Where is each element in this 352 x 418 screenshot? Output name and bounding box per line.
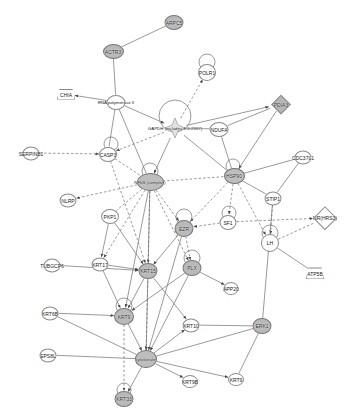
node-stip1[interactable]: STIP1 bbox=[264, 192, 282, 205]
ellipse-shape-icon bbox=[114, 308, 134, 325]
ellipse-shape-icon bbox=[60, 193, 77, 207]
node-pdia3[interactable]: PDIA3 bbox=[269, 98, 293, 111]
node-sf1[interactable]: SF1 bbox=[219, 216, 237, 229]
ellipse-shape-icon bbox=[165, 15, 184, 30]
node-krt9[interactable]: KRT9 bbox=[227, 373, 245, 386]
node-krt9b[interactable]: KRT9B bbox=[181, 375, 199, 388]
node-keratin[interactable]: cytokeratin bbox=[136, 351, 156, 367]
node-lh[interactable]: LH bbox=[261, 235, 279, 251]
node-krt15[interactable]: KRT15 bbox=[139, 264, 157, 278]
ellipse-shape-icon bbox=[261, 234, 279, 252]
ellipse-shape-icon bbox=[99, 147, 117, 162]
node-ndufa[interactable]: NDUFA bbox=[210, 123, 228, 136]
diamond-shape-icon bbox=[271, 94, 291, 114]
node-pkp1[interactable]: PKP1 bbox=[101, 210, 119, 223]
ellipse-shape-icon bbox=[210, 122, 229, 137]
ellipse-shape-icon bbox=[183, 318, 200, 332]
ellipse-shape-icon bbox=[42, 306, 59, 320]
ellipse-shape-icon bbox=[115, 391, 134, 407]
node-polr1[interactable]: POLR1 bbox=[198, 65, 216, 80]
node-krt10[interactable]: KRT10 bbox=[182, 319, 200, 332]
node-tubgcp6[interactable]: TUBGCP6 bbox=[43, 259, 61, 272]
ellipse-shape-icon bbox=[44, 258, 61, 272]
hoval-shape-icon bbox=[135, 350, 157, 368]
node-nlrp[interactable]: NLRP bbox=[59, 194, 77, 207]
ellipse-shape-icon bbox=[139, 263, 158, 279]
node-arpc5[interactable]: ARPC5 bbox=[165, 16, 183, 29]
node-ezr[interactable]: EZR bbox=[175, 221, 193, 236]
node-krt6b[interactable]: KRT6B bbox=[41, 307, 59, 320]
diamond-shape-icon bbox=[313, 206, 337, 230]
node-eps8l[interactable]: EPS8L bbox=[39, 349, 57, 362]
ellipse-shape-icon bbox=[265, 191, 282, 205]
node-krt17[interactable]: KRT17 bbox=[91, 258, 109, 271]
node-casp3[interactable]: CASP3 bbox=[99, 148, 117, 161]
node-erk1[interactable]: ERK1 bbox=[253, 319, 271, 333]
node-hrs3[interactable]: NR(HRS3) bbox=[314, 210, 336, 226]
ellipse-shape-icon bbox=[224, 282, 239, 295]
node-gapdh[interactable]: GAPDH (includes EG:2597) bbox=[164, 118, 186, 138]
node-krt33[interactable]: KRT33 bbox=[115, 392, 133, 406]
ellipse-shape-icon bbox=[182, 375, 198, 388]
node-cdc37l1[interactable]: CDC37L1 bbox=[294, 151, 312, 164]
node-atp5b[interactable]: ATP5B bbox=[306, 267, 324, 280]
ellipse-shape-icon bbox=[107, 95, 126, 110]
trapezoid-shape-icon bbox=[306, 267, 324, 279]
node-hsp90[interactable]: HSP90 bbox=[225, 169, 244, 183]
hoval-shape-icon bbox=[137, 173, 164, 191]
hoval-shape-icon bbox=[224, 168, 245, 184]
ellipse-shape-icon bbox=[295, 150, 312, 164]
ellipse-shape-icon bbox=[92, 257, 109, 271]
ellipse-shape-icon bbox=[198, 64, 216, 81]
node-actr3[interactable]: ACTR3 bbox=[104, 45, 123, 58]
ellipse-shape-icon bbox=[23, 146, 40, 160]
node-plx[interactable]: PLX bbox=[183, 261, 201, 275]
ellipse-shape-icon bbox=[101, 209, 119, 224]
node-chia[interactable]: CHIA bbox=[57, 88, 75, 101]
node-app20[interactable]: APP20 bbox=[222, 282, 240, 295]
ellipse-shape-icon bbox=[228, 373, 244, 386]
star-shape-icon bbox=[164, 118, 186, 138]
trapezoid-shape-icon bbox=[57, 89, 75, 100]
node-rnapol2[interactable]: RNA polymerase II bbox=[107, 96, 125, 109]
ellipse-shape-icon bbox=[253, 318, 272, 334]
ellipse-shape-icon bbox=[183, 260, 202, 276]
ellipse-shape-icon bbox=[220, 215, 237, 230]
node-serpinb1[interactable]: SERPINB1 bbox=[22, 147, 40, 160]
ellipse-shape-icon bbox=[40, 348, 57, 362]
ellipse-shape-icon bbox=[175, 220, 194, 237]
node-layer: ARPC5ACTR3POLR1CHIARNA polymerase IIPDIA… bbox=[0, 0, 352, 418]
ellipse-shape-icon bbox=[103, 44, 124, 59]
node-krt9c[interactable]: KRT9 bbox=[115, 309, 133, 324]
node-nfkb[interactable]: NFkB (complex) bbox=[138, 174, 163, 190]
